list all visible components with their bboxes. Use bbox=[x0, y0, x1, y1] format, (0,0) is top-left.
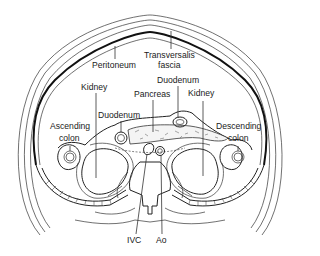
back-muscle-outline-2 bbox=[95, 208, 205, 214]
leader-ivc bbox=[136, 154, 147, 234]
descending-colon-structure bbox=[220, 145, 244, 170]
aorta-structure bbox=[156, 147, 165, 156]
label-aorta: Ao bbox=[156, 235, 167, 245]
ivc-structure bbox=[144, 143, 154, 154]
psoas-left bbox=[108, 172, 128, 198]
back-muscle-outline bbox=[75, 220, 225, 224]
label-duodenum-right: Duodenum bbox=[157, 75, 199, 85]
label-duodenum-left: Duodenum bbox=[98, 110, 140, 120]
label-kidney-right: Kidney bbox=[188, 88, 214, 98]
duodenum-left-structure bbox=[115, 132, 127, 144]
label-kidney-left: Kidney bbox=[81, 82, 107, 92]
vertebra bbox=[129, 162, 170, 214]
label-transversalis-2: fascia bbox=[158, 60, 180, 70]
label-ascending-colon-2: colon bbox=[59, 133, 80, 143]
label-descending-colon-2: colon bbox=[228, 133, 249, 143]
label-peritoneum: Peritoneum bbox=[92, 60, 136, 70]
pancreas bbox=[128, 125, 228, 144]
kidney-right-structure bbox=[172, 149, 218, 195]
psoas-right bbox=[172, 172, 192, 198]
kidney-left-structure bbox=[82, 149, 128, 195]
label-descending-colon-1: Descending bbox=[216, 121, 261, 131]
label-ascending-colon-1: Ascending bbox=[50, 121, 90, 131]
label-ivc: IVC bbox=[127, 235, 141, 245]
ascending-colon-structure bbox=[58, 145, 80, 170]
kidney-left-capsule bbox=[77, 143, 134, 198]
leader-aorta bbox=[161, 155, 162, 234]
kidney-right-capsule bbox=[167, 143, 224, 198]
label-transversalis-1: Transversalis bbox=[144, 50, 195, 60]
label-pancreas: Pancreas bbox=[134, 89, 170, 99]
